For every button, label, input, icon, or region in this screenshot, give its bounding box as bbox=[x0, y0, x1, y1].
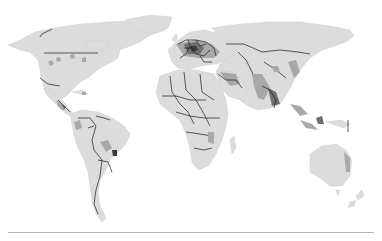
southeast-asia bbox=[290, 104, 350, 132]
bottom-divider bbox=[8, 232, 374, 233]
world-map bbox=[0, 0, 382, 241]
north-america bbox=[8, 15, 172, 100]
south-america bbox=[70, 110, 130, 222]
new-zealand bbox=[348, 190, 364, 208]
australia bbox=[310, 144, 352, 196]
